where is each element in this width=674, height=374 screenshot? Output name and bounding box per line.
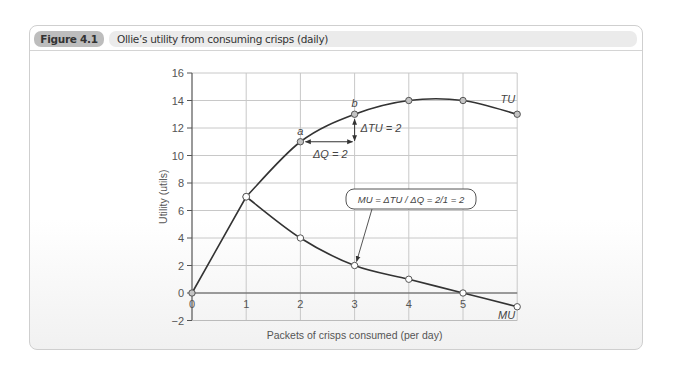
svg-text:−2: −2 [171,315,184,327]
tu-series-label: TU [501,93,516,105]
mu-series-label: MU [498,309,515,321]
mu-callout-text: MU = ΔTU / ΔQ = 2/1 = 2 [358,194,465,205]
callout-pointer-arrow [357,209,372,262]
svg-text:5: 5 [460,298,466,310]
svg-text:0: 0 [189,298,195,310]
svg-text:4: 4 [178,232,184,244]
svg-text:6: 6 [178,205,184,217]
tu-point [406,97,412,103]
mu-point [351,262,357,268]
tu-point [297,139,303,145]
svg-text:2: 2 [178,260,184,272]
svg-text:12: 12 [172,122,184,134]
y-axis-title: Utility (utils) [157,170,169,224]
svg-text:10: 10 [172,150,184,162]
svg-text:2: 2 [297,298,303,310]
tu-point [460,97,466,103]
mu-point [406,276,412,282]
mu-curve [246,197,517,307]
tu-point [189,290,195,296]
mu-point [460,290,466,296]
svg-text:3: 3 [352,298,358,310]
svg-text:4: 4 [406,298,412,310]
tu-point [514,111,520,117]
delta-q-label: ΔQ = 2 [312,148,348,160]
delta-tu-label: ΔTU = 2 [360,122,402,134]
x-axis-title: Packets of crisps consumed (per day) [267,329,443,341]
svg-text:16: 16 [172,67,184,79]
svg-text:0: 0 [178,287,184,299]
svg-text:8: 8 [178,177,184,189]
tu-point [351,111,357,117]
svg-text:1: 1 [243,298,249,310]
utility-chart: −20246810121416012345 Packets of crisps … [0,0,674,374]
shared-point [243,193,250,200]
mu-point [297,235,303,241]
point-b-label: b [352,97,358,109]
point-a-label: a [297,125,303,137]
svg-text:14: 14 [172,95,184,107]
